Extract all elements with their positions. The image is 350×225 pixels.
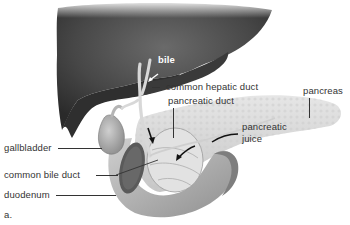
leader-gallbladder <box>58 148 102 149</box>
leader-duodenum <box>56 195 116 196</box>
label-pancreatic-juice-1: pancreatic <box>242 122 287 132</box>
gallbladder <box>98 106 124 154</box>
leader-common-bile-duct-diag <box>116 158 160 178</box>
label-common-hepatic-duct: common hepatic duct <box>166 82 258 92</box>
leader-common-bile-duct <box>96 175 118 176</box>
leader-common-hepatic-duct <box>152 87 160 88</box>
label-pancreas: pancreas <box>303 86 343 96</box>
digestive-organs-illustration <box>0 0 350 225</box>
label-bile: bile <box>158 55 175 65</box>
label-pancreatic-duct: pancreatic duct <box>168 96 234 106</box>
panel-label: a. <box>4 210 12 220</box>
leader-pancreatic-duct <box>173 108 174 138</box>
label-duodenum: duodenum <box>4 190 50 200</box>
label-gallbladder: gallbladder <box>4 143 52 153</box>
anatomy-diagram: bile common hepatic duct pancreatic duct… <box>0 0 350 225</box>
label-common-bile-duct: common bile duct <box>4 170 80 180</box>
leader-pancreas <box>309 98 310 118</box>
label-pancreatic-juice-2: juice <box>242 134 262 144</box>
